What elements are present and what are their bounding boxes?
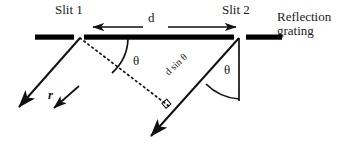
angle-arc-right	[206, 84, 239, 99]
slit-2-label: Slit 2	[222, 3, 250, 17]
reflection-grating-label: Reflection grating	[277, 10, 331, 37]
reflection-grating-diagram: Slit 1 Slit 2 Reflection grating d θ θ r…	[0, 0, 344, 151]
right-angle-marker	[162, 99, 171, 108]
slit-1-label: Slit 1	[55, 3, 83, 17]
reflection-grating-label-line2: grating	[277, 24, 331, 38]
slit-separation-label: d	[148, 11, 155, 25]
incident-ray-label: r	[48, 88, 53, 102]
grating-bar-middle-segment	[84, 35, 234, 40]
reflection-grating-label-line1: Reflection	[277, 10, 331, 24]
incident-direction-arrow	[54, 86, 79, 108]
ray-from-slit2	[151, 38, 239, 136]
wavefront-dotted-line	[80, 38, 170, 107]
theta-right-label: θ	[224, 63, 230, 77]
theta-left-label: θ	[133, 54, 139, 68]
grating-bar-left-segment	[35, 35, 74, 40]
